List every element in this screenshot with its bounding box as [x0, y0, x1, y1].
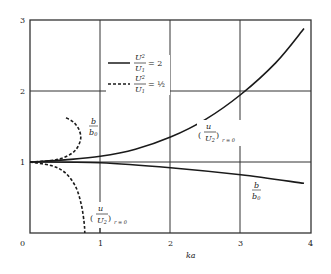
- svg-text:= ½: = ½: [148, 80, 165, 89]
- annotation-b-over-b0-dashed: b b0: [88, 115, 99, 137]
- series-line-2: [30, 117, 81, 162]
- svg-text:1: 1: [98, 239, 103, 248]
- x-axis-ticks: 0 1 2 3 4: [20, 239, 313, 248]
- y-axis-ticks: 3 2 1: [20, 16, 25, 167]
- svg-text:4: 4: [308, 239, 313, 248]
- svg-text:): ): [216, 131, 219, 140]
- svg-text:): ): [108, 214, 111, 223]
- gridlines: [30, 20, 311, 233]
- svg-text:3: 3: [20, 16, 25, 25]
- svg-text:r = 0: r = 0: [114, 219, 128, 225]
- svg-text:r = 0: r = 0: [222, 137, 236, 143]
- annotation-b-over-b0-solid: b b0: [252, 181, 261, 201]
- chart: U2 U1 = 2 U2 U1 = ½ 3 2 1 0 1 2 3 4 ka (…: [0, 0, 331, 274]
- svg-text:3: 3: [238, 239, 243, 248]
- svg-text:(: (: [198, 131, 201, 140]
- series-line-0: [30, 29, 304, 163]
- svg-text:= 2: = 2: [148, 59, 162, 68]
- svg-text:b: b: [91, 117, 96, 126]
- svg-text:b0: b0: [252, 192, 261, 201]
- svg-text:1: 1: [20, 158, 25, 167]
- svg-text:2: 2: [20, 87, 25, 96]
- svg-text:u: u: [98, 204, 103, 213]
- svg-text:2: 2: [168, 239, 173, 248]
- svg-text:(: (: [90, 214, 93, 223]
- series-line-3: [30, 162, 85, 233]
- svg-text:b: b: [254, 181, 259, 190]
- svg-text:u: u: [206, 122, 211, 131]
- x-axis-label: ka: [186, 251, 196, 260]
- annotation-u-over-U2-dashed: ( u U2 ) r = 0: [89, 202, 128, 228]
- svg-text:0: 0: [20, 239, 25, 248]
- annotation-u-over-U2-solid: ( u U2 ) r = 0: [197, 120, 241, 146]
